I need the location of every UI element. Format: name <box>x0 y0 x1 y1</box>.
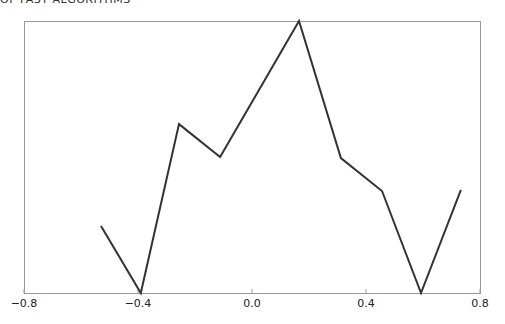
series-line <box>101 21 461 293</box>
x-axis-ticks: −0.8−0.40.00.40.8 <box>11 289 489 310</box>
series-group <box>101 21 461 293</box>
x-tick-label: −0.8 <box>11 297 38 310</box>
line-chart: −0.8−0.40.00.40.8 <box>0 0 505 324</box>
plot-frame <box>25 22 481 294</box>
x-tick-label: −0.4 <box>125 297 152 310</box>
x-tick-label: 0.8 <box>471 297 489 310</box>
x-tick-label: 0.0 <box>243 297 261 310</box>
x-tick-label: 0.4 <box>357 297 375 310</box>
